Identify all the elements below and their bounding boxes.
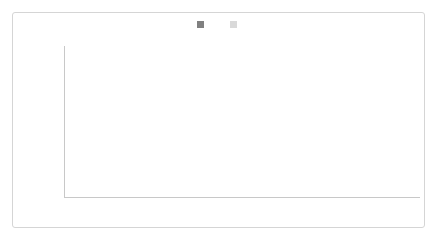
chart-legend [13, 21, 424, 28]
plot-wrapper [13, 46, 426, 228]
bar-series-group [65, 46, 420, 198]
y-axis [13, 46, 64, 198]
square-marker-dark-icon [197, 21, 204, 28]
x-axis-line [65, 197, 420, 198]
legend-item-losses-at-other-places[interactable] [197, 21, 208, 28]
chart-container[interactable] [12, 12, 425, 228]
square-marker-light-icon [230, 21, 237, 28]
legend-item-losses-at-jasenovac[interactable] [230, 21, 241, 28]
plot-area [64, 46, 420, 198]
